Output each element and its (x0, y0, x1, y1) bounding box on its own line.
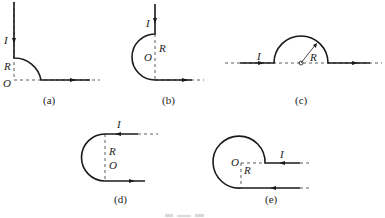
wire-diagrams: I R O (a) I R O (b) I R (c) I R O (0, 0, 385, 218)
center-label: O (3, 77, 11, 89)
wire-path (14, 2, 90, 80)
radius-label: R (243, 164, 251, 176)
arrow-left-icon (270, 186, 276, 190)
center-label: O (231, 156, 239, 168)
center-label: O (109, 159, 117, 171)
panel-d: I R O (d) (81, 118, 158, 206)
current-label: I (256, 50, 262, 62)
wire-path (213, 136, 300, 188)
radius-label: R (3, 60, 11, 72)
current-label: I (279, 148, 285, 160)
current-label: I (116, 118, 122, 130)
caption-b: (b) (162, 94, 175, 107)
radius-label: R (108, 145, 116, 157)
radius-label: R (158, 42, 166, 54)
arrow-right-icon (352, 61, 358, 65)
caption-e: (e) (265, 193, 278, 206)
arrow-left-icon (115, 132, 121, 136)
arrow-down-icon (153, 18, 157, 24)
panel-c: I R (c) (225, 36, 382, 107)
panel-b: I R O (b) (132, 4, 204, 107)
current-label: I (145, 17, 151, 29)
bottom-caption (165, 214, 204, 217)
current-label: I (3, 34, 9, 46)
arrow-right-icon (182, 78, 188, 82)
arrow-right-icon (129, 179, 135, 183)
panel-e: I R O (e) (213, 136, 310, 206)
panel-a: I R O (a) (3, 2, 100, 107)
caption-d: (d) (114, 193, 127, 206)
arrow-right-icon (70, 78, 76, 82)
radius-label: R (309, 51, 317, 63)
caption-a: (a) (43, 94, 56, 107)
arrow-down-icon (12, 38, 16, 44)
center-label: O (144, 51, 152, 63)
wire-path (81, 134, 145, 181)
caption-c: (c) (295, 94, 308, 107)
arrow-left-icon (279, 161, 285, 165)
